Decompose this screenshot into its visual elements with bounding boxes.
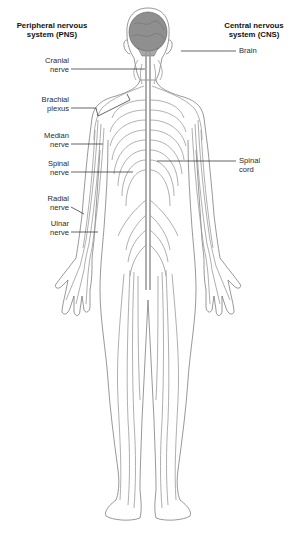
pns-title-line2: system (PNS) [12, 30, 92, 39]
label-radial-nerve: Radial nerve [20, 194, 69, 212]
brain-shape [129, 12, 167, 56]
label-text: Radial [20, 194, 69, 203]
label-spinal-cord: Spinal cord [239, 156, 289, 174]
pns-title: Peripheral nervous system (PNS) [12, 21, 92, 40]
leader-lines [71, 51, 236, 232]
body-outline [55, 8, 240, 520]
cns-title-line1: Central nervous [214, 21, 294, 30]
label-spinal-nerve: Spinal nerve [20, 159, 69, 177]
nervous-system-diagram: Peripheral nervous system (PNS) Central … [0, 0, 296, 540]
label-text: nerve [20, 203, 69, 212]
label-text: Spinal [20, 159, 69, 168]
label-text: plexus [20, 104, 69, 113]
label-text: cord [239, 165, 289, 174]
label-median-nerve: Median nerve [20, 131, 69, 149]
cns-title: Central nervous system (CNS) [214, 21, 294, 40]
label-text: nerve [20, 65, 69, 74]
label-text: Spinal [239, 156, 289, 165]
pns-title-line1: Peripheral nervous [12, 21, 92, 30]
label-text: Median [20, 131, 69, 140]
cns-title-line2: system (CNS) [214, 30, 294, 39]
label-text: nerve [20, 228, 69, 237]
label-text: nerve [20, 168, 69, 177]
label-text: nerve [20, 140, 69, 149]
label-brachial-plexus: Brachial plexus [20, 95, 69, 113]
body-illustration [0, 0, 296, 540]
label-text: Brain [239, 46, 289, 55]
brachial-plexus-leader [71, 94, 130, 116]
label-brain: Brain [239, 46, 289, 55]
label-ulnar-nerve: Ulnar nerve [20, 219, 69, 237]
label-text: Ulnar [20, 219, 69, 228]
label-text: Cranial [20, 56, 69, 65]
nerve-network [66, 52, 230, 508]
label-cranial-nerve: Cranial nerve [20, 56, 69, 74]
label-text: Brachial [20, 95, 69, 104]
